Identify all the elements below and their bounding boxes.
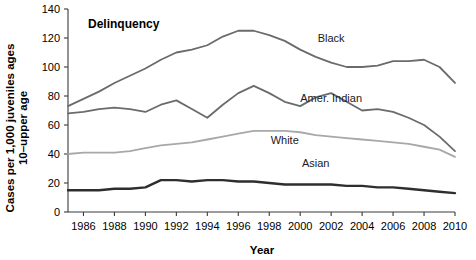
y-tick-label: 100 — [42, 61, 60, 73]
x-tick-label: 1986 — [71, 220, 95, 232]
x-tick-label: 1998 — [257, 220, 281, 232]
x-tick-label: 2006 — [381, 220, 405, 232]
series-label-asian: Asian — [302, 157, 330, 169]
series-line-amer-indian — [68, 86, 455, 151]
y-tick-label: 40 — [48, 148, 60, 160]
y-axis-title-line2: 10–upper age — [17, 91, 29, 165]
y-axis-title-line1: Cases per 1,000 juveniles ages — [4, 44, 16, 213]
x-tick-label: 1990 — [133, 220, 157, 232]
series-line-white — [68, 131, 455, 157]
y-tick-label: 140 — [42, 3, 60, 15]
series-label-black: Black — [318, 32, 345, 44]
x-tick-label: 1996 — [226, 220, 250, 232]
x-tick-label: 1992 — [164, 220, 188, 232]
y-tick-label: 120 — [42, 32, 60, 44]
x-axis-ticks: 1986198819901992199419961998200020022004… — [71, 212, 467, 232]
x-tick-label: 2004 — [350, 220, 374, 232]
series-line-black — [68, 31, 455, 106]
x-tick-label: 1994 — [195, 220, 219, 232]
y-tick-label: 0 — [54, 206, 60, 218]
y-tick-label: 80 — [48, 90, 60, 102]
series-label-white: White — [271, 134, 299, 146]
x-tick-label: 2002 — [319, 220, 343, 232]
x-axis-title: Year — [250, 244, 275, 256]
series-line-asian — [68, 180, 455, 193]
y-tick-label: 60 — [48, 119, 60, 131]
chart-canvas: 020406080100120140 198619881990199219941… — [0, 0, 476, 260]
series-lines — [68, 31, 455, 193]
x-tick-label: 1988 — [102, 220, 126, 232]
y-axis-ticks: 020406080100120140 — [42, 3, 68, 218]
x-tick-label: 2010 — [443, 220, 467, 232]
y-tick-label: 20 — [48, 177, 60, 189]
x-tick-label: 2000 — [288, 220, 312, 232]
chart-title: Delinquency — [88, 17, 160, 31]
delinquency-line-chart: 020406080100120140 198619881990199219941… — [0, 0, 476, 260]
x-tick-label: 2008 — [412, 220, 436, 232]
series-label-amer-indian: Amer. Indian — [300, 92, 362, 104]
